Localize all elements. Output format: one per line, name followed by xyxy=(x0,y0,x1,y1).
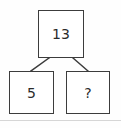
connector-line-sum-to-left xyxy=(31,58,49,71)
number-bond-part-left-value: 5 xyxy=(27,86,36,100)
number-bond-diagram: 13 5 ? xyxy=(0,0,121,128)
number-bond-whole-box: 13 xyxy=(38,10,84,58)
number-bond-part-left-box: 5 xyxy=(9,71,54,114)
connector-line-sum-to-right xyxy=(73,58,88,71)
number-bond-part-right-box[interactable]: ? xyxy=(66,71,110,114)
bottom-divider xyxy=(0,120,121,121)
number-bond-part-right-value: ? xyxy=(84,86,92,100)
number-bond-whole-value: 13 xyxy=(52,27,70,41)
